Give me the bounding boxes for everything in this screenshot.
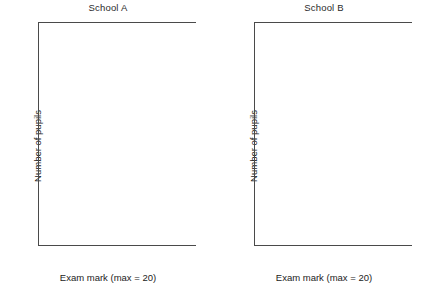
bar-series-school-b [255, 22, 412, 245]
x-axis-school-a [39, 246, 196, 256]
chart-title-school-b: School B [216, 2, 432, 13]
histogram-figure: School A Number of pupils Exam mark (max… [0, 0, 433, 291]
chart-title-school-a: School A [0, 2, 216, 13]
plot-area-school-b [254, 22, 412, 246]
panel-school-b: School B Number of pupils Exam mark (max… [216, 0, 432, 291]
x-axis-title-school-a: Exam mark (max = 20) [0, 272, 216, 283]
x-axis-title-school-b: Exam mark (max = 20) [216, 272, 432, 283]
bar-series-school-a [39, 22, 196, 245]
panel-school-a: School A Number of pupils Exam mark (max… [0, 0, 216, 291]
x-axis-school-b [255, 246, 412, 256]
plot-area-school-a [38, 22, 196, 246]
